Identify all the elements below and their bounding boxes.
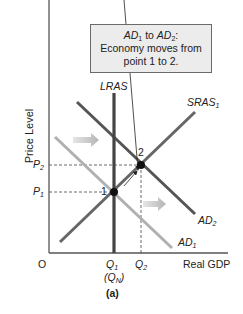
x-axis-label: Real GDP xyxy=(183,258,230,270)
point-1-label: 1 xyxy=(101,185,107,197)
p1-tick-label: P1 xyxy=(33,185,44,197)
to-text: to xyxy=(142,29,157,41)
sras-text: SRAS xyxy=(187,96,216,108)
ad-text: AD xyxy=(124,29,139,41)
qn-text: (Q xyxy=(104,271,116,283)
ad-text: AD xyxy=(157,29,172,41)
sras1-curve xyxy=(60,112,195,242)
annotation-line-1: AD1 to AD2: xyxy=(91,29,211,42)
point-2-marker xyxy=(137,161,145,169)
shift-arrow-lower xyxy=(143,197,166,211)
point-1-marker xyxy=(110,188,118,196)
ad2-text: AD xyxy=(198,214,213,226)
q1-tick-label: Q1 xyxy=(106,258,118,270)
q2-tick-label: Q2 xyxy=(135,258,147,270)
ad2-label: AD2 xyxy=(198,214,217,226)
p2-text: P xyxy=(33,158,40,170)
p1-sub: 1 xyxy=(40,191,44,198)
shift-arrow-upper xyxy=(73,133,99,147)
q1-sub: 1 xyxy=(114,264,118,271)
annotation-box: AD1 to AD2: Economy moves from point 1 t… xyxy=(90,24,212,73)
sras-sub: 1 xyxy=(216,102,220,109)
colon-text: : xyxy=(175,29,178,41)
ad2-curve xyxy=(77,102,195,214)
p2-tick-label: P2 xyxy=(33,158,44,170)
q2-text: Q xyxy=(135,258,143,270)
ad1-sub: 1 xyxy=(193,242,197,249)
annotation-line-2: Economy moves from xyxy=(91,42,211,55)
sras1-label: SRAS1 xyxy=(187,96,220,108)
q2-sub: 2 xyxy=(143,264,147,271)
p2-sub: 2 xyxy=(40,164,44,171)
q1-text: Q xyxy=(106,258,114,270)
annotation-line-3: point 1 to 2. xyxy=(91,55,211,68)
qn-tick-label: (QN) xyxy=(104,271,124,283)
ad1-text: AD xyxy=(178,236,193,248)
point-2-label: 2 xyxy=(138,146,144,158)
figure-caption: (a) xyxy=(106,287,119,299)
lras-label: LRAS xyxy=(100,80,127,92)
ad2-sub: 2 xyxy=(213,220,217,227)
p1-text: P xyxy=(33,185,40,197)
ad1-label: AD1 xyxy=(178,236,197,248)
origin-label: O xyxy=(38,258,46,270)
qn-close: ) xyxy=(121,271,125,283)
